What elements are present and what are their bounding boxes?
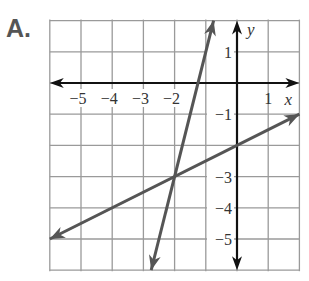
grid bbox=[50, 20, 300, 272]
svg-text:1: 1 bbox=[224, 44, 232, 61]
svg-text:y: y bbox=[245, 20, 255, 39]
svg-text:x: x bbox=[283, 90, 292, 109]
svg-text:−3: −3 bbox=[215, 169, 232, 186]
coordinate-plane: −5−4−3−211−1−3−4−5yx bbox=[0, 0, 309, 281]
svg-text:−4: −4 bbox=[101, 90, 118, 107]
svg-text:1: 1 bbox=[264, 90, 272, 107]
svg-text:−5: −5 bbox=[215, 231, 232, 248]
svg-text:−3: −3 bbox=[132, 90, 149, 107]
svg-text:−1: −1 bbox=[215, 106, 232, 123]
svg-text:−4: −4 bbox=[215, 200, 232, 217]
svg-text:−2: −2 bbox=[163, 90, 180, 107]
svg-text:−5: −5 bbox=[69, 90, 86, 107]
